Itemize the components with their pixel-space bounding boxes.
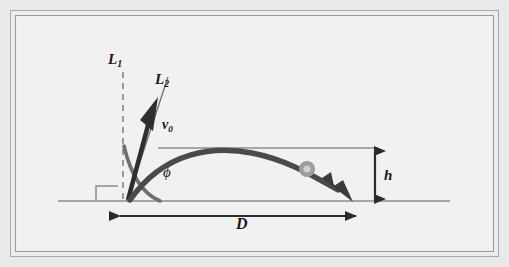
right-angle-marker [96,186,118,201]
label-height-h: h [384,168,392,183]
label-range-D: D [236,216,248,232]
label-velocity-v0: v0 [162,118,173,134]
projectile-ball-hole [303,165,310,172]
figure-root: L1 L2 v0 ϕ h D [0,0,509,267]
label-angle-phi: ϕ [163,165,171,180]
label-L2: L2 [155,72,169,89]
label-L1: L1 [108,52,122,69]
trajectory-arrowhead [322,172,353,202]
projectile-diagram-svg [0,0,509,267]
velocity-vector-arrowhead [140,97,158,131]
